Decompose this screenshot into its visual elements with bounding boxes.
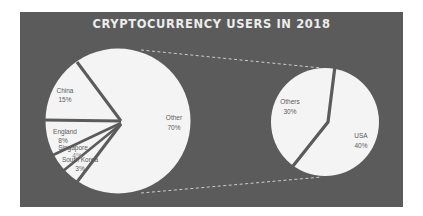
- secondary-pie: Others 30% USA 40%: [271, 66, 379, 176]
- label-england-name: England: [53, 128, 77, 136]
- label-southkorea-pct: 3%: [75, 165, 85, 172]
- label-china-pct: 15%: [58, 96, 71, 103]
- label-usa-name: USA: [354, 132, 368, 139]
- label-singapore-name: Singapore: [58, 144, 88, 152]
- label-china-name: China: [57, 87, 74, 94]
- label-usa-pct: 40%: [354, 142, 367, 149]
- connector-line-bottom: [141, 177, 322, 193]
- label-others-pct: 30%: [283, 108, 296, 115]
- primary-pie: China 15% England 8% Singapore 4% South …: [44, 49, 191, 194]
- separator-china-england: [44, 120, 121, 121]
- label-other-name: Other: [166, 114, 183, 121]
- connector-line-top: [141, 50, 321, 68]
- label-england-pct: 8%: [58, 137, 68, 144]
- label-southkorea-name: South Korea: [62, 156, 99, 163]
- label-others-name: Others: [280, 98, 300, 105]
- label-other-pct: 70%: [167, 124, 180, 131]
- secondary-pie-body: [271, 68, 379, 176]
- pie-of-pie-chart: China 15% England 8% Singapore 4% South …: [0, 0, 423, 216]
